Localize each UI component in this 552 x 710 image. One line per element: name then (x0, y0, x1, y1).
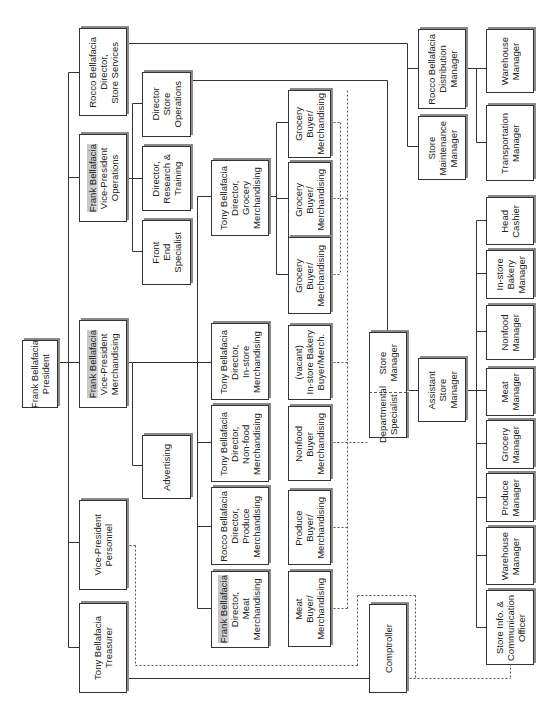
org-box-line: Director, (229, 330, 240, 394)
org-box-line: Advertising (161, 444, 172, 491)
org-box-line: Maintenance (437, 121, 448, 175)
org-box-line: Manager (510, 532, 521, 580)
org-box-label: AssistantStoreManager (426, 371, 459, 410)
org-box-line: Vice-President (92, 514, 103, 576)
org-box-line: Manager (448, 121, 459, 175)
org-box-line: Produce (293, 497, 304, 559)
org-box-line: Merchandising (315, 578, 326, 640)
org-box-transportation-manager: TransportationManager (486, 105, 534, 181)
org-box-dir-produce: Rocco BellafaciaDirector,ProduceMerchand… (211, 487, 269, 565)
org-box-dir-nonfood: Tony BellafaciaDirector,Non-foodMerchand… (211, 405, 269, 482)
org-box-line: Tony Bellafacia (218, 166, 229, 230)
org-box-line: Store (426, 121, 437, 175)
org-box-grocery-manager: GroceryManager (486, 420, 534, 469)
org-box-label: MeatManager (499, 373, 521, 411)
org-box-dir-research-training: Director,Research &Training (142, 146, 191, 211)
org-box-line: Meat (293, 578, 304, 640)
org-box-line: Meat (499, 373, 510, 411)
org-box-label: Director,Research &Training (150, 154, 183, 204)
org-box-line: Merchandising (251, 330, 262, 394)
org-box-line: Rocco Bellafacia (426, 34, 437, 105)
org-box-line: Merchandising (315, 169, 326, 231)
org-box-assistant-store-manager: AssistantStoreManager (418, 358, 466, 422)
org-box-line: Research & (161, 154, 172, 204)
org-box-line: Merchandising (251, 412, 262, 476)
org-chart: Frank BellafaciaPresidentTony Bellafacia… (0, 0, 552, 710)
org-box-label: FrontEndSpecialist (150, 232, 183, 273)
org-box-line: Store Services (109, 37, 120, 108)
org-box-dir-meat: Frank BellafaciaDirector,MeatMerchandisi… (211, 571, 269, 648)
org-box-line: Grocery (293, 245, 304, 307)
org-box-label: ProduceManager (499, 479, 521, 517)
org-box-label: Tony BellafaciaDirector,GroceryMerchandi… (218, 166, 262, 230)
org-box-dir-store-operations: DirectorStoreOperations (142, 72, 191, 137)
org-box-line: Assistant (426, 371, 437, 410)
org-box-line: Merchandising (109, 330, 120, 398)
org-box-label: (vacant)In-store BakeryBuyer/Merch. (293, 330, 326, 394)
org-box-line: Front (150, 232, 161, 273)
org-box-label: Tony BellafaciaDirector,Non-foodMerchand… (218, 412, 262, 476)
org-box-line: Rocco Bellafacia (87, 37, 98, 108)
org-box-meat-buyer: MeatBuyer/Merchandising (288, 571, 331, 647)
org-box-label: Frank BellafaciaVice-PresidentOperations (87, 144, 120, 212)
org-box-line: Cashier (510, 205, 521, 238)
org-box-line: Manager (388, 344, 399, 382)
org-box-store-maintenance-manager: StoreMaintenanceManager (418, 116, 466, 180)
org-box-advertising: Advertising (142, 435, 191, 499)
org-box-produce-buyer: ProduceBuyer/Merchandising (288, 490, 331, 565)
org-box-line: Merchandising (315, 93, 326, 155)
org-box-line: Director, (229, 412, 240, 476)
org-box-label: Comptroller (383, 624, 394, 673)
org-box-grocery-buyer-2: GroceryBuyer/Merchandising (288, 162, 331, 238)
org-box-label: GroceryManager (499, 426, 521, 464)
org-box-line: Produce (499, 479, 510, 517)
org-box-label: MeatBuyer/Merchandising (293, 578, 326, 640)
org-box-line: Grocery (293, 169, 304, 231)
org-box-line: Buyer/ (304, 245, 315, 307)
org-box-line: Buyer/Merch. (315, 330, 326, 394)
org-box-treasurer: Tony BellafaciaTreasurer (79, 603, 127, 693)
org-box-label: DirectorStoreOperations (150, 81, 183, 127)
org-box-line: Store (437, 371, 448, 410)
org-box-vp-operations: Frank BellafaciaVice-PresidentOperations (79, 134, 127, 222)
org-box-departmental-specialist: DepartmentalSpecialist (369, 392, 407, 438)
org-box-line: Merchandising (315, 413, 326, 475)
org-box-line: Bakery (505, 256, 516, 294)
org-box-vp-personnel: Vice-PresidentPersonnel (79, 500, 127, 590)
org-box-line: Grocery (499, 426, 510, 464)
org-box-label: Tony BellafaciaDirector,In-storeMerchand… (218, 330, 262, 394)
org-box-label: HeadCashier (499, 205, 521, 238)
org-box-line: Manager (510, 479, 521, 517)
org-box-line: Buyer/ (304, 93, 315, 155)
org-box-label: Frank BellafaciaVice-PresidentMerchandis… (87, 330, 120, 398)
org-box-label: WarehouseManager (499, 532, 521, 580)
org-box-line: Communication (505, 595, 516, 661)
org-box-line: Operations (109, 144, 120, 212)
org-box-store-manager: StoreManager (369, 332, 407, 393)
org-box-label: Vice-PresidentPersonnel (92, 514, 114, 576)
org-box-label: Advertising (161, 444, 172, 491)
org-box-line: Merchandising (251, 575, 262, 643)
org-box-line: Manager (516, 256, 527, 294)
org-box-label: ProduceBuyer/Merchandising (293, 497, 326, 559)
org-box-line: Manager (510, 314, 521, 352)
org-box-line: Training (172, 154, 183, 204)
org-box-line: Tony Bellafacia (218, 330, 229, 394)
org-box-nonfood-manager: NonfoodManager (486, 305, 534, 360)
org-box-grocery-buyer-3: GroceryBuyer/Merchandising (288, 237, 331, 314)
org-box-warehouse-manager-dist: WarehouseManager (486, 29, 534, 93)
org-box-label: GroceryBuyer/Merchandising (293, 245, 326, 307)
org-box-label: Rocco BellafaciaDirector,Store Services (87, 37, 120, 108)
org-box-line: Vice-President (98, 144, 109, 212)
org-box-president: Frank BellafaciaPresident (22, 340, 58, 408)
org-box-line: Buyer/ (304, 497, 315, 559)
org-box-label: Frank BellafaciaDirector,MeatMerchandisi… (218, 575, 262, 643)
org-box-distribution-manager: Rocco BellafaciaDistributionManager (418, 29, 466, 109)
org-box-line: Director (150, 81, 161, 127)
org-box-line: Manager (510, 426, 521, 464)
org-box-label: StoreManager (377, 344, 399, 382)
org-box-line: In-store Bakery (304, 330, 315, 394)
org-box-label: Rocco BellafaciaDistributionManager (426, 34, 459, 105)
org-box-line: Distribution (437, 34, 448, 105)
org-box-label: DepartmentalSpecialist (377, 386, 399, 443)
